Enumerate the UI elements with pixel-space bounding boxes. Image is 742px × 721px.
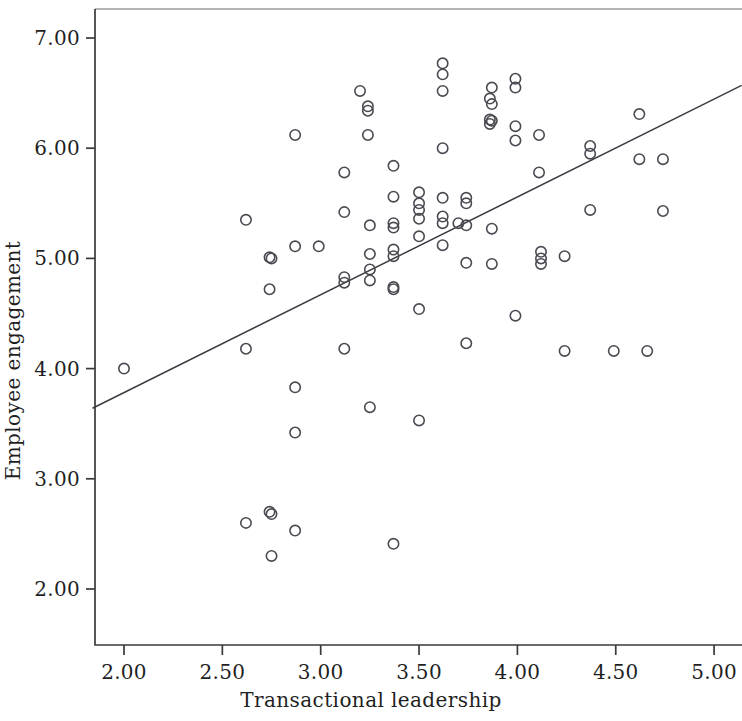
data-point: [437, 218, 447, 228]
x-tick-label: 4.00: [495, 660, 541, 684]
x-tick-label: 3.50: [396, 660, 442, 684]
data-point: [414, 415, 424, 425]
data-point: [487, 82, 497, 92]
data-point: [290, 525, 300, 535]
y-tick-label: 7.00: [34, 26, 80, 50]
data-point: [290, 130, 300, 140]
data-point: [388, 191, 398, 201]
x-tick-label: 5.00: [691, 660, 737, 684]
data-point: [266, 551, 276, 561]
data-point: [264, 284, 274, 294]
x-axis-title: Transactional leadership: [0, 688, 742, 712]
data-point: [437, 86, 447, 96]
y-tick-label: 6.00: [34, 136, 80, 160]
data-point: [119, 363, 129, 373]
data-point: [437, 143, 447, 153]
x-tick-label: 3.00: [298, 660, 344, 684]
data-point: [634, 154, 644, 164]
data-point: [241, 344, 251, 354]
data-point: [339, 344, 349, 354]
y-tick-label: 4.00: [34, 357, 80, 381]
data-point: [437, 240, 447, 250]
data-point: [266, 509, 276, 519]
axis-lines: [95, 9, 742, 645]
data-point: [658, 206, 668, 216]
data-point: [365, 275, 375, 285]
data-point: [414, 231, 424, 241]
x-tick-label: 2.00: [101, 660, 147, 684]
data-point: [414, 304, 424, 314]
data-point: [365, 249, 375, 259]
x-tick-label: 4.50: [593, 660, 639, 684]
data-point: [290, 241, 300, 251]
data-point: [585, 205, 595, 215]
data-point: [355, 86, 365, 96]
data-point: [559, 346, 569, 356]
x-axis-tick-marks: [124, 645, 714, 655]
y-tick-label: 5.00: [34, 246, 80, 270]
data-point: [642, 346, 652, 356]
data-point: [510, 135, 520, 145]
data-point: [388, 161, 398, 171]
data-point: [365, 220, 375, 230]
data-point: [363, 130, 373, 140]
data-point: [534, 167, 544, 177]
data-point: [487, 223, 497, 233]
data-point: [585, 149, 595, 159]
data-point: [365, 264, 375, 274]
data-point: [339, 207, 349, 217]
data-point: [365, 402, 375, 412]
data-point: [510, 311, 520, 321]
data-point: [290, 427, 300, 437]
data-point: [658, 154, 668, 164]
data-point: [437, 193, 447, 203]
data-point: [634, 109, 644, 119]
data-point-markers: [119, 58, 668, 561]
data-point: [461, 338, 471, 348]
data-point: [290, 382, 300, 392]
y-tick-label: 3.00: [34, 467, 80, 491]
data-point: [487, 259, 497, 269]
fit-line: [93, 85, 742, 408]
regression-line: [93, 85, 742, 408]
data-point: [339, 167, 349, 177]
data-point: [241, 518, 251, 528]
plot-canvas: [0, 0, 742, 721]
data-point: [437, 69, 447, 79]
y-tick-label: 2.00: [34, 577, 80, 601]
data-point: [437, 58, 447, 68]
data-point: [388, 539, 398, 549]
x-tick-label: 2.50: [199, 660, 245, 684]
data-point: [559, 251, 569, 261]
data-point: [314, 241, 324, 251]
data-point: [510, 121, 520, 131]
data-point: [461, 258, 471, 268]
data-point: [609, 346, 619, 356]
y-axis-title: Employee engagement: [0, 0, 28, 721]
y-axis-tick-marks: [86, 38, 95, 589]
data-point: [414, 187, 424, 197]
scatter-plot-figure: 2.003.004.005.006.007.00 2.002.503.003.5…: [0, 0, 742, 721]
data-point: [534, 130, 544, 140]
data-point: [241, 215, 251, 225]
